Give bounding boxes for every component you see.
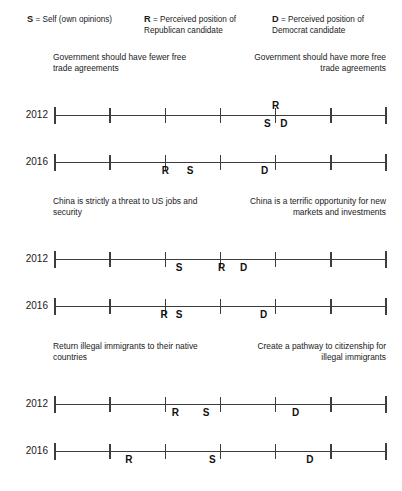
- axis-tick: [54, 298, 55, 315]
- marker-s: S: [209, 454, 216, 465]
- marker-s: S: [176, 309, 183, 320]
- legend: S = Self (own opinions) R = Perceived po…: [0, 0, 402, 48]
- axis-tick: [275, 155, 276, 170]
- legend-text-democrat: = Perceived position of Democrat candida…: [272, 15, 364, 35]
- axis-tick: [54, 154, 55, 171]
- legend-text-self: = Self (own opinions): [33, 15, 112, 24]
- axis-tick: [275, 444, 276, 459]
- year-label: 2012: [8, 398, 48, 409]
- axis-tick: [220, 397, 221, 412]
- axis-tick: [330, 299, 331, 314]
- panel-captions: Government should have fewer free trade …: [0, 52, 402, 96]
- marker-d: D: [292, 407, 299, 418]
- axis-tick: [385, 107, 386, 124]
- caption-right: China is a terrific opportunity for new …: [236, 196, 386, 219]
- axis-tick: [109, 299, 110, 314]
- axis-tick: [109, 444, 110, 459]
- panel-immigration: Return illegal immigrants to their nativ…: [0, 341, 402, 486]
- axis-tick: [165, 444, 166, 459]
- axis-tick: [330, 108, 331, 123]
- axis-tick: [165, 108, 166, 123]
- axis-tick: [275, 397, 276, 412]
- axis-tick: [109, 397, 110, 412]
- axis-tick: [220, 299, 221, 314]
- marker-r: R: [125, 454, 132, 465]
- axis-tick: [385, 154, 386, 171]
- axis-tick: [54, 443, 55, 460]
- axis-tick: [385, 396, 386, 413]
- axis-tick: [220, 108, 221, 123]
- scale-axis: RSD: [55, 287, 386, 333]
- scale-row-2012: 2012SRD: [0, 240, 402, 286]
- axis-tick: [54, 107, 55, 124]
- axis-tick: [109, 252, 110, 267]
- panel-china: China is strictly a threat to US jobs an…: [0, 196, 402, 329]
- scale-axis: RSD: [55, 385, 386, 431]
- legend-key-democrat: D: [272, 14, 279, 24]
- year-label: 2016: [8, 300, 48, 311]
- legend-item-republican: R = Perceived position of Republican can…: [144, 14, 269, 36]
- axis-tick: [109, 108, 110, 123]
- marker-s: S: [187, 165, 194, 176]
- scale-row-2012: 2012SRD: [0, 96, 402, 142]
- marker-r: R: [162, 165, 169, 176]
- caption-right: Create a pathway to citizenship for ille…: [236, 341, 386, 364]
- legend-item-self: S = Self (own opinions): [27, 14, 157, 26]
- scale-axis: RSD: [55, 143, 386, 189]
- legend-key-republican: R: [144, 14, 151, 24]
- axis-tick: [385, 251, 386, 268]
- marker-d: D: [260, 309, 267, 320]
- axis-tick: [330, 397, 331, 412]
- marker-r: R: [218, 262, 225, 273]
- marker-d: D: [261, 165, 268, 176]
- marker-s: S: [176, 262, 183, 273]
- marker-s: S: [264, 118, 271, 129]
- panel-free-trade: Government should have fewer free trade …: [0, 52, 402, 185]
- marker-r: R: [172, 407, 179, 418]
- scale-row-2016: 2016RSD: [0, 432, 402, 478]
- axis-tick: [275, 299, 276, 314]
- marker-d: D: [306, 454, 313, 465]
- legend-item-democrat: D = Perceived position of Democrat candi…: [272, 14, 397, 36]
- axis-tick: [330, 252, 331, 267]
- marker-r: R: [272, 100, 279, 111]
- scale-row-2016: 2016RSD: [0, 287, 402, 333]
- axis-tick: [54, 251, 55, 268]
- axis-tick: [220, 444, 221, 459]
- panel-captions: China is strictly a threat to US jobs an…: [0, 196, 402, 240]
- year-label: 2012: [8, 109, 48, 120]
- scale-axis: SRD: [55, 240, 386, 286]
- panel-captions: Return illegal immigrants to their nativ…: [0, 341, 402, 385]
- caption-left: China is strictly a threat to US jobs an…: [53, 196, 203, 219]
- caption-left: Government should have fewer free trade …: [53, 52, 203, 75]
- scale-row-2016: 2016RSD: [0, 143, 402, 189]
- marker-d: D: [240, 262, 247, 273]
- axis-tick: [109, 155, 110, 170]
- marker-s: S: [203, 407, 210, 418]
- scale-row-2012: 2012RSD: [0, 385, 402, 431]
- axis-tick: [165, 397, 166, 412]
- year-label: 2016: [8, 156, 48, 167]
- axis-tick: [165, 252, 166, 267]
- axis-tick: [385, 298, 386, 315]
- axis-tick: [54, 396, 55, 413]
- caption-right: Government should have more free trade a…: [236, 52, 386, 75]
- legend-text-republican: = Perceived position of Republican candi…: [144, 15, 236, 35]
- axis-tick: [330, 444, 331, 459]
- marker-d: D: [280, 118, 287, 129]
- axis-tick: [330, 155, 331, 170]
- scale-axis: SRD: [55, 96, 386, 142]
- marker-r: R: [161, 309, 168, 320]
- scale-axis: RSD: [55, 432, 386, 478]
- axis-tick: [385, 443, 386, 460]
- axis-tick: [220, 155, 221, 170]
- year-label: 2012: [8, 253, 48, 264]
- year-label: 2016: [8, 445, 48, 456]
- caption-left: Return illegal immigrants to their nativ…: [53, 341, 203, 364]
- axis-tick: [275, 252, 276, 267]
